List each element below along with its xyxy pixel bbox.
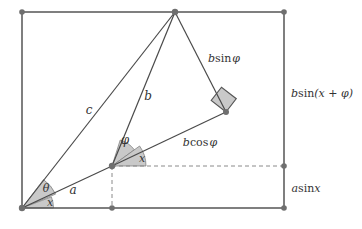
segment-c bbox=[22, 12, 175, 208]
vertex-origin bbox=[19, 205, 25, 211]
vertex-top-left bbox=[19, 9, 25, 15]
label-side-a: a bbox=[69, 184, 76, 196]
dashed-guides bbox=[112, 166, 284, 208]
vertex-mid bbox=[109, 163, 115, 169]
label-b-sin-phi-coeff: b bbox=[208, 52, 215, 65]
label-b-cos-phi-fn: cos bbox=[190, 136, 208, 149]
label-side-c: c bbox=[86, 104, 93, 116]
label-angle-phi: φ bbox=[121, 134, 129, 146]
vertex-bottom-right bbox=[281, 205, 287, 211]
label-b-sin-phi-fn: sin bbox=[215, 52, 231, 65]
label-b-sin-x-plus-phi-coeff: b bbox=[291, 87, 298, 100]
diagram-canvas bbox=[0, 0, 362, 229]
label-b-cos-phi: bcos φ bbox=[183, 137, 217, 148]
label-b-cos-phi-arg: φ bbox=[209, 136, 217, 149]
vertex-top-right bbox=[281, 9, 287, 15]
label-angle-x-mid: x bbox=[139, 153, 145, 164]
label-b-sin-x-plus-phi-arg: (x + φ) bbox=[314, 87, 353, 100]
segment-a bbox=[22, 166, 112, 208]
label-a-sin-x: asinx bbox=[291, 183, 320, 194]
label-angle-x-origin: x bbox=[47, 197, 53, 208]
label-angle-theta: θ bbox=[43, 183, 50, 194]
label-b-cos-phi-coeff: b bbox=[183, 136, 190, 149]
label-side-b: b bbox=[144, 90, 152, 102]
bounding-rectangle bbox=[22, 12, 284, 208]
label-b-sin-phi-arg: φ bbox=[232, 52, 240, 65]
angle-sectors bbox=[22, 140, 146, 208]
vertex-apex bbox=[172, 9, 178, 15]
vertex-dots bbox=[19, 9, 287, 211]
vertex-right-angle bbox=[223, 109, 229, 115]
label-b-sin-x-plus-phi: bsin(x + φ) bbox=[291, 88, 353, 99]
vertex-bottom-mid bbox=[109, 205, 115, 211]
label-a-sin-x-fn: sin bbox=[298, 182, 314, 195]
triangle-edges bbox=[22, 12, 226, 208]
vertex-right-mid bbox=[281, 163, 287, 169]
geometry-diagram: c b a bsin φ bcos φ bsin(x + φ) asinx θ … bbox=[0, 0, 362, 229]
label-a-sin-x-arg: x bbox=[314, 182, 320, 195]
label-b-sin-phi: bsin φ bbox=[208, 53, 240, 64]
label-b-sin-x-plus-phi-fn: sin bbox=[298, 87, 314, 100]
